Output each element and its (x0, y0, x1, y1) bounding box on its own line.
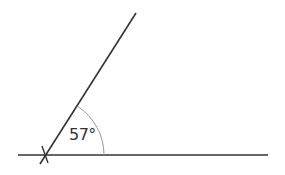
angle-diagram (0, 0, 285, 175)
angle-label: 57° (69, 127, 96, 143)
